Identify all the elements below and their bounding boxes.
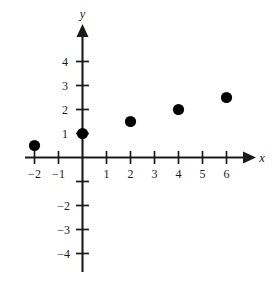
scatter-plot-figure: −2 −1 1 2 3 4 5 6 4 3 2 1 −2 −3 −4 x y — [0, 0, 276, 290]
x-axis-arrow-icon — [243, 152, 256, 164]
x-axis — [25, 152, 256, 164]
data-point — [221, 92, 232, 103]
y-tick-label-3: 3 — [62, 79, 68, 93]
data-point — [173, 104, 184, 115]
x-tick-label-2: 2 — [128, 167, 134, 181]
x-tick-label-1: 1 — [104, 167, 110, 181]
y-tick-label--2: −2 — [57, 199, 70, 213]
y-tick-label-4: 4 — [62, 55, 68, 69]
x-axis-tick-labels: −2 −1 1 2 3 4 5 6 — [28, 167, 229, 181]
plot-canvas: −2 −1 1 2 3 4 5 6 4 3 2 1 −2 −3 −4 x y — [0, 0, 276, 290]
y-tick-label-1: 1 — [62, 127, 68, 141]
x-tick-label-5: 5 — [200, 167, 206, 181]
y-tick-label-2: 2 — [62, 103, 68, 117]
data-point — [29, 140, 40, 151]
x-tick-label--1: −1 — [52, 167, 65, 181]
y-tick-label--3: −3 — [57, 223, 70, 237]
x-tick-label-3: 3 — [152, 167, 158, 181]
x-tick-label-6: 6 — [224, 167, 230, 181]
data-point — [77, 128, 88, 139]
data-point — [125, 116, 136, 127]
y-tick-label--4: −4 — [57, 247, 70, 261]
x-axis-label: x — [258, 151, 265, 165]
x-tick-label-4: 4 — [176, 167, 182, 181]
y-axis-arrow-icon — [77, 24, 89, 37]
data-point-series — [29, 92, 232, 151]
y-axis-label: y — [78, 7, 86, 21]
x-tick-label--2: −2 — [28, 167, 41, 181]
